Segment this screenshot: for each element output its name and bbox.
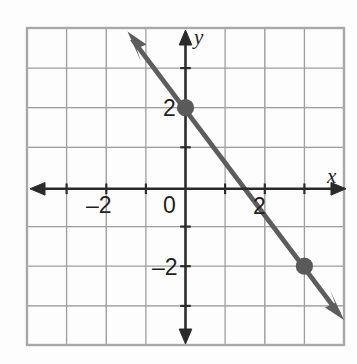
coordinate-plane-svg: y x –2 2 0 2 –2 [0, 0, 357, 364]
origin-label: 0 [163, 192, 176, 218]
x-tick-label-positive-2: 2 [253, 193, 266, 219]
y-axis-label: y [192, 25, 204, 49]
x-tick-label-negative-2: –2 [86, 192, 112, 218]
y-tick-label-negative-2: –2 [152, 254, 178, 280]
y-tick-label-positive-2: 2 [163, 95, 176, 121]
plotted-point-y-intercept[interactable] [177, 99, 194, 116]
x-axis-label: x [326, 164, 337, 188]
plotted-point-second[interactable] [296, 258, 313, 275]
graph-figure: y x –2 2 0 2 –2 [0, 0, 357, 364]
